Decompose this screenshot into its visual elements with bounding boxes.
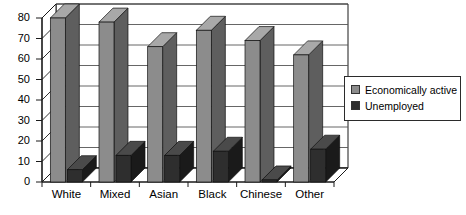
x-tick-asian: Asian [149,188,178,201]
y-tick-80: 80 [4,12,30,23]
x-tick-black: Black [198,188,226,201]
x-tick-chinese: Chinese [240,188,282,201]
legend-item-unemployed: Unemployed [351,98,454,113]
legend-label-unemployed: Unemployed [365,100,424,112]
y-tick-70: 70 [4,33,30,44]
x-tick-mixed: Mixed [100,188,131,201]
x-tick-white: White [52,188,81,201]
y-tick-20: 20 [4,135,30,146]
y-tick-50: 50 [4,74,30,85]
legend-swatch-economically-active [351,85,360,94]
y-tick-40: 40 [4,94,30,105]
y-axis-tick-labels: 80706050403020100 [4,0,30,215]
legend-label-economically-active: Economically active [365,84,457,96]
bar-white-economically-active [50,4,79,182]
y-tick-0: 0 [4,176,30,187]
x-tick-other: Other [295,188,324,201]
chart-legend: Economically active Unemployed [344,76,461,121]
y-tick-10: 10 [4,156,30,167]
bar-chart: 80706050403020100 WhiteMixedAsianBlackCh… [0,0,466,215]
y-tick-30: 30 [4,115,30,126]
legend-swatch-unemployed [351,101,360,110]
y-tick-60: 60 [4,53,30,64]
x-axis-tick-labels: WhiteMixedAsianBlackChineseOther [0,188,466,208]
legend-item-economically-active: Economically active [351,82,454,97]
bar-chinese-economically-active [245,27,274,182]
